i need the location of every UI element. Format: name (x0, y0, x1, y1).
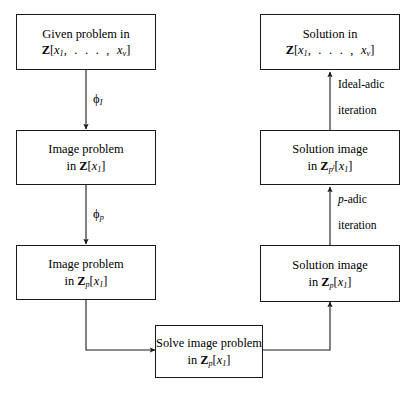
node-given-problem-line2: Z[x1, . . . , xv] (42, 42, 131, 58)
flow-diagram: Given problem in Z[x1, . . . , xv] Solut… (0, 0, 413, 394)
node-solve-image-problem-line2: in Zp[x1] (188, 352, 231, 368)
node-solution-image-zp-line1: Solution image (292, 257, 367, 273)
node-given-problem-line1: Given problem in (42, 26, 129, 42)
node-solution-top[interactable]: Solution in Z[x1, . . . , xv] (260, 14, 400, 70)
iteration-text: iteration (338, 104, 377, 117)
edge-to-solve-box (86, 300, 155, 350)
node-solution-top-line2: Z[x1, . . . , xv] (286, 42, 375, 58)
node-solution-image-zp[interactable]: Solution image in Zp[x1] (260, 245, 400, 302)
phi-symbol: ϕ (93, 92, 100, 106)
edge-label-phi-p: ϕp (93, 207, 104, 223)
node-image-problem-z-line1: Image problem (48, 141, 123, 157)
node-given-problem[interactable]: Given problem in Z[x1, . . . , xv] (16, 14, 156, 70)
node-solve-image-problem[interactable]: Solve image problem in Zp[x1] (155, 325, 263, 378)
node-solve-image-problem-line1: Solve image problem (156, 335, 262, 351)
node-image-problem-zp[interactable]: Image problem in Zp[x1] (16, 245, 156, 300)
phi-subscript: p (100, 213, 104, 222)
phi-symbol: ϕ (93, 207, 100, 221)
edge-solve-to-solution-image (263, 302, 330, 350)
node-image-problem-zp-line1: Image problem (48, 256, 123, 272)
node-image-problem-zp-line2: in Zp[x1] (65, 273, 108, 289)
edge-label-p-adic-iteration: iteration (338, 219, 377, 233)
node-solution-image-zp-line2: in Zp[x1] (309, 274, 352, 290)
p-adic-suffix: -adic (344, 193, 367, 206)
edge-label-phi-ideal: ϕI (93, 92, 102, 108)
edge-label-ideal-adic-iteration: iteration (338, 104, 377, 118)
phi-subscript: I (100, 98, 103, 107)
edge-label-p-adic: p-adic (338, 193, 367, 207)
node-solution-image-zpi-line1: Solution image (292, 141, 367, 157)
edge-label-ideal-adic: Ideal-adic (338, 78, 384, 92)
ideal-adic-text: Ideal-adic (338, 78, 384, 91)
node-solution-image-zpi-line2: in ZpI[x1] (308, 158, 353, 174)
node-image-problem-z-line2: in Z[x1] (67, 158, 106, 174)
node-solution-image-zpi[interactable]: Solution image in ZpI[x1] (260, 130, 400, 185)
node-solution-top-line1: Solution in (303, 26, 358, 42)
iteration-text: iteration (338, 219, 377, 232)
node-image-problem-z[interactable]: Image problem in Z[x1] (16, 130, 156, 185)
